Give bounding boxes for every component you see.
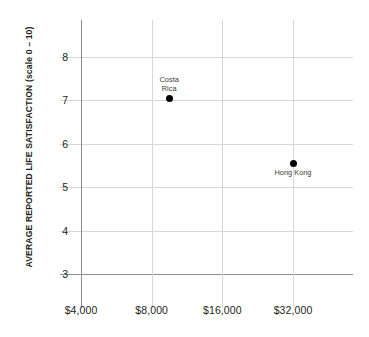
x-axis-tick-label: $32,000: [248, 304, 338, 316]
data-point-label: Costa Rica: [129, 75, 209, 93]
gridline-horizontal: [60, 57, 353, 58]
data-point[interactable]: [166, 95, 173, 102]
plot-area: 876543$4,000$8,000$16,000$32,000Costa Ri…: [0, 0, 369, 337]
gridline-vertical: [152, 20, 153, 308]
data-point[interactable]: [290, 160, 297, 167]
gridline-horizontal: [60, 231, 353, 232]
y-axis-tick-label: 3: [28, 268, 68, 280]
y-axis-tick-label: 6: [28, 138, 68, 150]
data-point-label: Hong Kong: [253, 168, 333, 177]
y-axis-tick-label: 7: [28, 94, 68, 106]
y-axis-tick-label: 5: [28, 181, 68, 193]
y-axis-tick-label: 8: [28, 51, 68, 63]
x-axis-line: [60, 274, 353, 275]
gridline-horizontal: [60, 187, 353, 188]
scatter-chart: AVERAGE REPORTED LIFE SATISFACTION (scal…: [0, 0, 369, 337]
gridline-vertical: [222, 20, 223, 308]
y-axis-tick-label: 4: [28, 225, 68, 237]
gridline-horizontal: [60, 144, 353, 145]
gridline-horizontal: [60, 100, 353, 101]
y-axis-line: [81, 20, 82, 308]
